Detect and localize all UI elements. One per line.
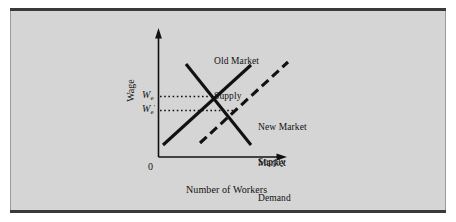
x-axis-label: Number of Workers	[186, 184, 267, 196]
wage-level-2-label: We′	[142, 103, 155, 117]
y-axis	[155, 28, 162, 157]
old-market-supply-label: Old Market Supply	[214, 33, 259, 125]
old-market-supply-label-line1: Old Market	[214, 56, 259, 68]
wage-level-1-subscript: e	[150, 94, 153, 102]
old-market-supply-label-line2: Supply	[214, 91, 259, 103]
market-demand-label-line1: Market	[258, 158, 291, 170]
wage-level-2-prime: ′	[154, 103, 156, 111]
market-demand-label: Market Demand	[258, 135, 291, 222]
wage-level-1-label: We	[142, 89, 154, 103]
figure-screenshot: Wage We We′ Old Market Supply New Market…	[0, 0, 456, 222]
origin-label: 0	[148, 161, 153, 173]
new-market-supply-label-line1: New Market	[258, 122, 307, 134]
y-axis-label: Wage	[125, 71, 136, 111]
